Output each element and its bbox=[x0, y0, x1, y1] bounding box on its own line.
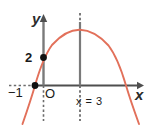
graph-canvas bbox=[0, 0, 153, 127]
point-marker-y-intercept bbox=[40, 54, 47, 61]
parabola-figure: y x 2 −1 O x = 3 bbox=[0, 0, 153, 127]
x-intercept-tick-label: −1 bbox=[8, 86, 23, 99]
y-axis-label: y bbox=[32, 11, 40, 26]
y-axis-arrowhead bbox=[40, 14, 47, 22]
axis-of-symmetry-label: x = 3 bbox=[76, 96, 103, 107]
origin-label: O bbox=[45, 87, 55, 100]
point-marker-x-intercept bbox=[32, 82, 39, 89]
y-intercept-tick-label: 2 bbox=[25, 51, 32, 64]
x-axis-label: x bbox=[135, 87, 143, 102]
